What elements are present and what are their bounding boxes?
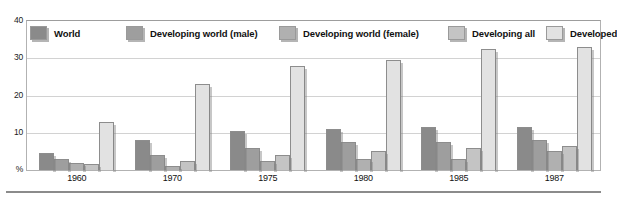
bar: [547, 151, 562, 170]
bar: [195, 84, 210, 170]
bar: [386, 60, 401, 170]
bar: [245, 148, 260, 170]
bar: [275, 155, 290, 170]
legend-swatch-icon-3: [448, 26, 465, 40]
bar: [150, 155, 165, 170]
bar: [341, 142, 356, 170]
bar: [436, 142, 451, 170]
bar: [517, 127, 532, 170]
bottom-rule: [6, 191, 601, 193]
legend-item-1: Developing world (male): [126, 26, 258, 40]
bar: [99, 122, 114, 170]
y-axis-tick-30: 30: [14, 53, 23, 62]
y-axis-tick-40: 40: [14, 16, 23, 25]
x-axis-tick-1985: 1985: [409, 173, 508, 183]
legend-label: World: [54, 28, 80, 39]
bar: [451, 159, 466, 170]
bar: [39, 153, 54, 170]
x-axis-tick-1960: 1960: [27, 173, 126, 183]
x-axis: 196019701975198019851987: [27, 173, 600, 189]
legend-label: Developing world (female): [303, 28, 419, 39]
bar: [54, 159, 69, 170]
legend-swatch-icon-4: [546, 26, 563, 40]
bar: [260, 161, 275, 170]
bar: [371, 151, 386, 170]
legend-swatch-icon-1: [126, 26, 143, 40]
legend-label: Developing all: [472, 28, 535, 39]
chart-legend: WorldDeveloping world (male)Developing w…: [28, 21, 600, 45]
legend-item-2: Developing world (female): [279, 26, 419, 40]
y-axis: %10203040: [0, 0, 26, 202]
x-axis-tick-1980: 1980: [314, 173, 413, 183]
x-axis-tick-1987: 1987: [505, 173, 604, 183]
legend-item-0: World: [30, 26, 80, 40]
y-axis-tick-10: 10: [14, 128, 23, 137]
legend-item-3: Developing all: [448, 26, 535, 40]
bar: [180, 161, 195, 170]
bar: [562, 146, 577, 170]
y-axis-tick-20: 20: [14, 91, 23, 100]
bar: [326, 129, 341, 170]
bar: [577, 47, 592, 170]
legend-swatch-icon-0: [30, 26, 47, 40]
bar: [290, 66, 305, 170]
bar: [230, 131, 245, 170]
bar: [165, 166, 180, 170]
x-axis-tick-1970: 1970: [123, 173, 222, 183]
bar: [356, 159, 371, 170]
x-axis-tick-1975: 1975: [218, 173, 317, 183]
legend-label: Developed: [570, 28, 617, 39]
bar: [135, 140, 150, 170]
y-axis-tick-percent: %: [16, 165, 23, 174]
legend-label: Developing world (male): [150, 28, 258, 39]
bar: [481, 49, 496, 170]
legend-item-4: Developed: [546, 26, 617, 40]
bar: [532, 140, 547, 170]
bar: [421, 127, 436, 170]
bar: [69, 163, 84, 170]
legend-swatch-icon-2: [279, 26, 296, 40]
bar: [84, 164, 99, 170]
bar: [466, 148, 481, 170]
